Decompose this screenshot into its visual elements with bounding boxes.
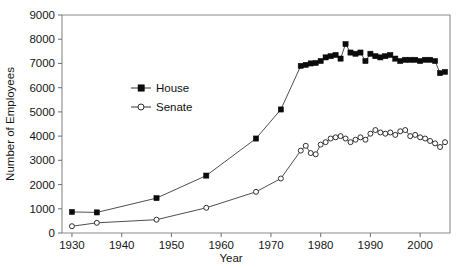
y-tick-label: 6000	[29, 82, 55, 94]
y-tick-label: 7000	[29, 57, 55, 69]
data-point	[303, 143, 308, 148]
data-point	[368, 51, 373, 56]
legend-label: House	[156, 82, 189, 94]
data-point	[413, 57, 418, 62]
data-point	[432, 58, 437, 63]
data-point	[313, 60, 318, 65]
x-tick-label: 1940	[109, 239, 135, 251]
y-tick-label: 2000	[29, 179, 55, 191]
data-point	[343, 136, 348, 141]
data-point	[348, 140, 353, 145]
data-point	[363, 137, 368, 142]
employees-line-chart: 0100020003000400050006000700080009000 19…	[0, 0, 466, 268]
data-point	[94, 210, 99, 215]
x-tick-label: 1960	[208, 239, 234, 251]
data-point	[204, 205, 209, 210]
data-point	[393, 56, 398, 61]
data-point	[428, 138, 433, 143]
data-point	[433, 141, 438, 146]
data-point	[403, 128, 408, 133]
data-point	[278, 107, 283, 112]
data-point	[94, 220, 99, 225]
chart-figure: 0100020003000400050006000700080009000 19…	[0, 0, 466, 268]
data-point	[253, 136, 258, 141]
data-point	[333, 52, 338, 57]
x-tick-label: 1980	[308, 239, 334, 251]
data-point	[408, 134, 413, 139]
data-point	[388, 52, 393, 57]
data-point	[348, 50, 353, 55]
data-point	[328, 136, 333, 141]
data-point	[373, 128, 378, 133]
data-point	[298, 148, 303, 153]
data-point	[418, 135, 423, 140]
data-point	[308, 151, 313, 156]
x-tick-label: 2000	[407, 239, 433, 251]
data-point	[353, 137, 358, 142]
data-point	[383, 54, 388, 59]
data-point	[358, 50, 363, 55]
data-point	[437, 71, 442, 76]
data-point	[373, 54, 378, 59]
data-point	[383, 131, 388, 136]
data-point	[413, 132, 418, 137]
legend-marker-filled-square-icon	[138, 85, 144, 91]
data-point	[398, 58, 403, 63]
x-tick-label: 1970	[258, 239, 284, 251]
data-point	[328, 54, 333, 59]
legend-label: Senate	[156, 101, 192, 113]
data-point	[403, 57, 408, 62]
data-point	[388, 130, 393, 135]
data-point	[438, 145, 443, 150]
data-point	[298, 63, 303, 68]
x-axis-title: Year	[219, 252, 242, 264]
y-tick-label: 1000	[29, 203, 55, 215]
data-point	[313, 152, 318, 157]
y-tick-label: 3000	[29, 154, 55, 166]
x-tick-label: 1950	[159, 239, 185, 251]
data-point	[343, 41, 348, 46]
data-point	[323, 55, 328, 60]
data-point	[363, 58, 368, 63]
data-point	[408, 57, 413, 62]
data-point	[338, 134, 343, 139]
y-tick-label: 9000	[29, 9, 55, 21]
data-point	[69, 224, 74, 229]
data-point	[154, 196, 159, 201]
data-point	[423, 57, 428, 62]
data-point	[443, 140, 448, 145]
data-point	[442, 69, 447, 74]
data-point	[278, 176, 283, 181]
data-point	[69, 209, 74, 214]
data-point	[368, 131, 373, 136]
data-point	[418, 58, 423, 63]
data-point	[204, 173, 209, 178]
data-point	[303, 62, 308, 67]
data-point	[323, 140, 328, 145]
data-point	[308, 61, 313, 66]
y-axis-title: Number of Employees	[4, 67, 16, 181]
y-tick-label: 4000	[29, 130, 55, 142]
data-point	[254, 189, 259, 194]
data-point	[398, 129, 403, 134]
data-point	[338, 56, 343, 61]
x-tick-label: 1990	[358, 239, 384, 251]
y-tick-label: 5000	[29, 106, 55, 118]
data-point	[378, 55, 383, 60]
data-point	[318, 58, 323, 63]
data-point	[393, 132, 398, 137]
data-point	[333, 135, 338, 140]
x-tick-label: 1930	[59, 239, 85, 251]
y-tick-label: 8000	[29, 33, 55, 45]
data-point	[353, 51, 358, 56]
data-point	[423, 136, 428, 141]
data-point	[378, 130, 383, 135]
data-point	[428, 57, 433, 62]
data-point	[318, 142, 323, 147]
data-point	[154, 217, 159, 222]
data-point	[358, 135, 363, 140]
y-tick-label: 0	[49, 227, 55, 239]
legend-marker-open-circle-icon	[138, 104, 144, 110]
